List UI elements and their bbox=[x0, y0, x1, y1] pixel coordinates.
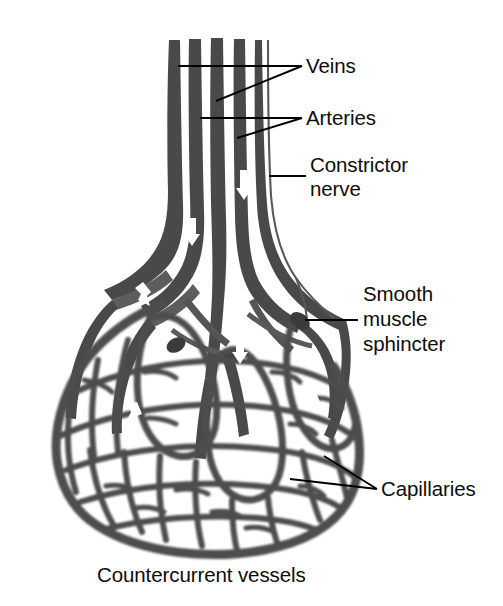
label-smooth-muscle-sphincter-line1: Smooth bbox=[363, 282, 433, 305]
label-arteries: Arteries bbox=[306, 106, 376, 129]
figure-caption: Countercurrent vessels bbox=[97, 563, 306, 586]
label-constrictor-nerve-line2: nerve bbox=[310, 177, 361, 200]
label-veins: Veins bbox=[306, 54, 356, 77]
label-smooth-muscle-sphincter-line2: muscle bbox=[363, 307, 427, 330]
label-smooth-muscle-sphincter-line3: sphincter bbox=[363, 332, 446, 355]
label-constrictor-nerve-line1: Constrictor bbox=[310, 153, 408, 176]
label-capillaries: Capillaries bbox=[381, 477, 476, 500]
figure-root: Veins Arteries Constrictor nerve Smooth … bbox=[0, 0, 503, 606]
countercurrent-vessel-diagram: Veins Arteries Constrictor nerve Smooth … bbox=[0, 0, 503, 606]
